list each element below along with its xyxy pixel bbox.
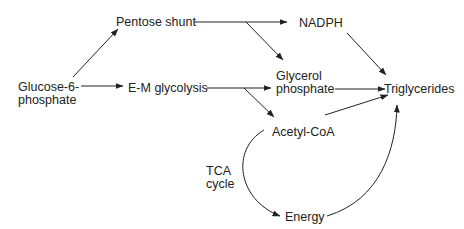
arrow-glucose-to-pentose xyxy=(73,29,118,77)
node-em-glycolysis: E-M glycolysis xyxy=(128,81,208,95)
node-glycerol-phosphate: Glycerol xyxy=(276,69,322,83)
label-tca-cycle-line2: cycle xyxy=(206,177,235,191)
node-glucose-6-phosphate-line2: phosphate xyxy=(18,93,76,107)
node-glucose-6-phosphate: Glucose-6- xyxy=(18,80,79,94)
arrow-pentose-to-glycerol xyxy=(246,22,283,60)
arrow-em-to-acetyl xyxy=(244,88,274,117)
arrow-tca-cycle xyxy=(243,130,280,216)
label-tca-cycle: TCA xyxy=(206,164,232,178)
node-pentose-shunt: Pentose shunt xyxy=(116,15,196,29)
arrow-nadph-to-triglycerides xyxy=(347,33,386,75)
arrow-energy-to-triglycerides xyxy=(327,105,397,216)
arrow-acetyl-to-triglycerides xyxy=(325,95,388,115)
node-glycerol-phosphate-line2: phosphate xyxy=(276,82,334,96)
node-triglycerides: Triglycerides xyxy=(384,82,454,96)
node-acetyl-coa: Acetyl-CoA xyxy=(272,125,335,139)
edges xyxy=(73,22,397,216)
nodes: Glucose-6- phosphate Pentose shunt NADPH… xyxy=(18,15,454,224)
node-energy: Energy xyxy=(285,210,325,224)
pathway-diagram: Glucose-6- phosphate Pentose shunt NADPH… xyxy=(0,0,464,229)
node-nadph: NADPH xyxy=(299,16,343,30)
